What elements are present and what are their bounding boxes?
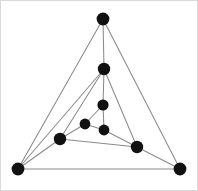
graph-edge: [60, 69, 104, 139]
graph-node-upper-mid: [98, 63, 110, 75]
graph-canvas: [0, 0, 198, 191]
graph-node-bottom-right: [174, 163, 187, 176]
node-layer: [12, 13, 187, 176]
graph-edge: [18, 69, 104, 169]
graph-node-right-mid: [131, 141, 143, 153]
graph-edge: [104, 69, 137, 147]
edge-layer: [18, 19, 180, 169]
graph-figure: Undirected graph diagram Nested triangul…: [0, 0, 198, 191]
graph-edge: [60, 139, 137, 147]
graph-node-inner-left: [80, 119, 91, 130]
graph-node-left-mid: [54, 133, 66, 145]
graph-edge: [18, 139, 60, 169]
graph-edge: [18, 19, 103, 169]
graph-node-bottom-left: [12, 163, 25, 176]
graph-node-inner-top: [97, 99, 108, 110]
graph-edge: [137, 147, 180, 169]
graph-edge: [103, 19, 104, 69]
graph-node-apex: [97, 13, 110, 26]
graph-node-inner-bottom: [99, 125, 110, 136]
